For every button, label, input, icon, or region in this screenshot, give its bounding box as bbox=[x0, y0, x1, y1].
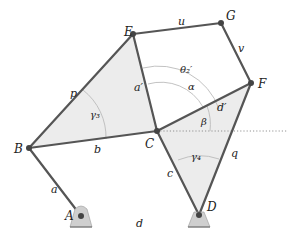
point-label-b: B bbox=[13, 142, 23, 156]
link-label-b: b bbox=[94, 143, 101, 156]
link-v bbox=[221, 23, 251, 83]
joint-d bbox=[196, 212, 202, 218]
point-label-e: E bbox=[123, 25, 133, 39]
point-label-f: F bbox=[257, 77, 267, 91]
linkage-diagram: A B C D E F G a b c d p q u v a′ d′ θ₂′ … bbox=[0, 0, 300, 243]
link-label-a: a bbox=[51, 183, 58, 196]
link-label-a-prime: a′ bbox=[134, 81, 144, 94]
link-label-q: q bbox=[231, 147, 238, 160]
link-a bbox=[29, 148, 81, 216]
link-label-v: v bbox=[238, 42, 245, 55]
joint-b bbox=[26, 145, 32, 151]
link-label-d-prime: d′ bbox=[217, 101, 227, 114]
angle-label-gamma3: γ₃ bbox=[90, 109, 100, 120]
joint-a bbox=[78, 213, 84, 219]
joint-c bbox=[154, 128, 160, 134]
joint-g bbox=[218, 20, 224, 26]
link-label-c: c bbox=[167, 167, 173, 180]
joint-f bbox=[248, 80, 254, 86]
angle-label-alpha: α bbox=[188, 81, 195, 92]
angle-label-gamma4: γ₄ bbox=[191, 151, 201, 162]
point-label-g: G bbox=[226, 9, 236, 23]
point-label-c: C bbox=[145, 137, 154, 151]
point-label-a: A bbox=[64, 209, 74, 223]
point-label-d: D bbox=[206, 200, 217, 214]
angle-label-beta: β bbox=[200, 116, 207, 127]
link-label-d: d bbox=[136, 217, 143, 230]
angle-label-theta2-prime: θ₂′ bbox=[180, 64, 193, 75]
link-u bbox=[133, 23, 221, 34]
link-label-u: u bbox=[178, 15, 185, 28]
link-label-p: p bbox=[70, 87, 77, 100]
